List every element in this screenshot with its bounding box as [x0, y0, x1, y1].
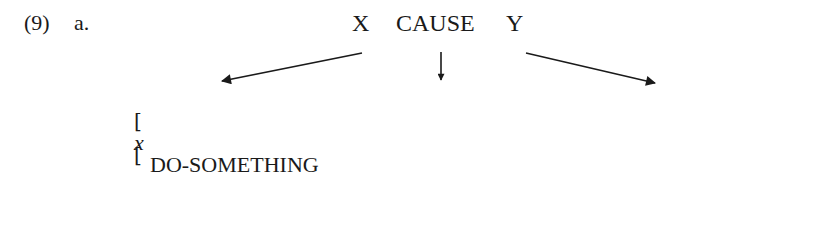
formula-line-ii: [ y DO-SOMETHING ]CAUSE [BECOME [ y DO]]… — [123, 122, 319, 174]
arrow-left — [222, 53, 362, 81]
variable: y — [134, 164, 144, 174]
arrow-right — [526, 53, 655, 83]
